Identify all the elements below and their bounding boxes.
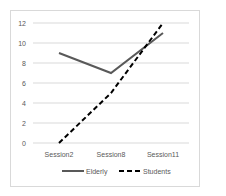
x-tick-label: Session2 bbox=[45, 151, 74, 158]
y-axis-ticks: 024681012 bbox=[18, 20, 26, 147]
legend-elderly-label: Elderly bbox=[86, 168, 108, 176]
gridlines bbox=[33, 23, 189, 143]
legend: Elderly Students bbox=[62, 168, 171, 176]
y-tick-label: 4 bbox=[22, 100, 26, 107]
series-line-elderly bbox=[59, 33, 163, 73]
x-axis-ticks: Session2Session8Session11 bbox=[45, 151, 180, 158]
x-tick-label: Session8 bbox=[97, 151, 126, 158]
x-tick-label: Session11 bbox=[147, 151, 179, 158]
y-tick-label: 0 bbox=[22, 140, 26, 147]
y-tick-label: 10 bbox=[18, 40, 26, 47]
legend-students-label: Students bbox=[143, 168, 171, 175]
y-tick-label: 8 bbox=[22, 60, 26, 67]
y-tick-label: 6 bbox=[22, 80, 26, 87]
y-tick-label: 12 bbox=[18, 20, 26, 27]
line-chart: 024681012 Session2Session8Session11 Elde… bbox=[0, 0, 226, 196]
y-tick-label: 2 bbox=[22, 120, 26, 127]
